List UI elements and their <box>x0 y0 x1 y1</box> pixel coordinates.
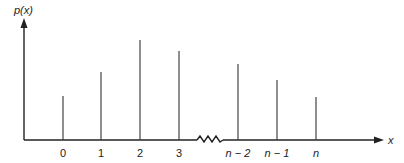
tick-label-2: 2 <box>137 147 143 159</box>
probability-stem-chart: p(x) x 0 1 2 3 n − 2 n − 1 n <box>0 0 404 163</box>
stems <box>63 40 316 140</box>
y-axis-arrow-icon <box>21 18 28 28</box>
tick-label-n-minus-2: n − 2 <box>226 147 251 159</box>
tick-label-0: 0 <box>60 147 66 159</box>
y-axis-label: p(x) <box>13 4 33 16</box>
tick-label-3: 3 <box>176 147 182 159</box>
tick-label-1: 1 <box>98 147 104 159</box>
tick-label-n: n <box>313 147 319 159</box>
x-axis-label: x <box>387 134 394 146</box>
x-axis-arrow-icon <box>374 137 384 144</box>
axis-break-icon <box>197 136 223 142</box>
tick-label-n-minus-1: n − 1 <box>265 147 290 159</box>
